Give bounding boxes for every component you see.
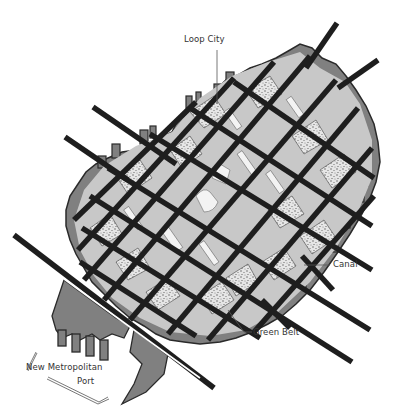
label-port-line1: New Metropolitan [26, 362, 103, 372]
label-green-belt: Green Belt [253, 327, 299, 337]
label-canal: Canal [333, 259, 358, 269]
city-plan-map [0, 0, 402, 418]
label-port-line2: Port [77, 376, 94, 386]
label-loop-city: Loop City [184, 34, 225, 44]
